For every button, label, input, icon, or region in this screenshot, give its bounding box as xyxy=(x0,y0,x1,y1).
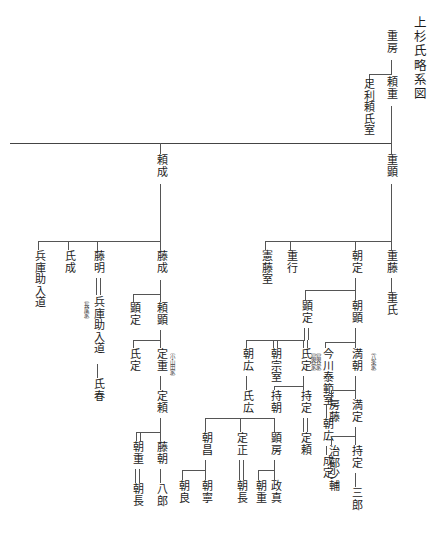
connector-v xyxy=(355,328,356,342)
node-akifusa: 顕房 xyxy=(269,432,281,455)
node-yoriaki: 頼顕 xyxy=(155,302,167,325)
node-shigefusa: 重房 xyxy=(385,30,397,53)
node-mitsusada: 満定 xyxy=(350,399,362,422)
connector-h xyxy=(331,390,355,391)
node-tomoshige-left: 朝重 xyxy=(131,441,143,464)
connector-v-double xyxy=(273,340,278,348)
connector-v-double xyxy=(303,418,308,432)
node-kenfuji-shitsu: 憲藤室 xyxy=(260,250,272,285)
label-nagao-ke: 〔長尾家〕 xyxy=(84,297,89,322)
node-hyogonosuke-nyudo-left: 兵庫助入道 xyxy=(33,250,45,308)
connector-v-double xyxy=(136,432,141,441)
connector-v xyxy=(355,376,356,390)
node-tomoshige-right: 朝重 xyxy=(254,480,266,503)
node-ujinari: 氏成 xyxy=(63,250,75,273)
node-sadayori-2: 定頼 xyxy=(299,432,311,455)
connector-h xyxy=(325,342,355,343)
connector-h xyxy=(133,294,160,295)
genealogy-chart: 上杉氏略系図 重房 頼重 足利頼氏室 頼成 兵庫助入道 氏成 藤明 〔長尾家〕 … xyxy=(0,0,430,549)
node-shigefuji: 重藤 xyxy=(385,250,397,273)
node-mochitomo: 持朝 xyxy=(269,390,281,413)
main-divider xyxy=(10,143,392,144)
node-ujiharu: 氏春 xyxy=(92,378,104,401)
node-tomoyoshi: 朝良 xyxy=(177,480,189,503)
connector-h xyxy=(182,470,205,471)
connector-v xyxy=(391,278,392,292)
connector-v xyxy=(274,470,275,480)
connector-v xyxy=(355,278,356,290)
connector-v xyxy=(258,470,259,480)
connector-v xyxy=(182,470,183,480)
connector-v xyxy=(160,469,161,483)
node-tomonaga-mid: 朝長 xyxy=(235,480,247,503)
connector-v xyxy=(38,241,39,250)
node-tomoaki: 朝顕 xyxy=(350,300,362,323)
connector-v xyxy=(240,418,241,432)
connector-v-double xyxy=(135,469,140,483)
node-mochisada-2: 持定 xyxy=(299,390,311,413)
node-ujihiro: 氏広 xyxy=(241,390,253,413)
node-sadashige: 定重 xyxy=(155,348,167,371)
node-shigeaki: 重顕 xyxy=(385,154,397,177)
connector-v xyxy=(160,432,161,441)
connector-v xyxy=(355,473,356,487)
connector-v xyxy=(355,390,356,399)
connector-v xyxy=(290,241,291,250)
connector-v-double xyxy=(304,328,309,340)
node-tomoyasu: 朝寧 xyxy=(200,480,212,503)
connector-v xyxy=(133,340,134,348)
connector-h xyxy=(133,340,160,341)
connector-v xyxy=(160,280,161,294)
node-akisada-left: 顕定 xyxy=(128,302,140,325)
connector-v xyxy=(246,340,247,348)
node-yorishige: 頼重 xyxy=(385,76,397,99)
connector-v xyxy=(303,376,304,386)
node-tomohiro-upper: 朝広 xyxy=(241,348,253,371)
chart-title: 上杉氏略系図 xyxy=(411,16,424,101)
node-tomomune-shitsu: 朝宗室 xyxy=(269,348,281,383)
connector-v-double xyxy=(303,340,308,348)
connector-v xyxy=(274,418,275,432)
connector-v xyxy=(205,418,206,432)
connector-v xyxy=(305,290,306,300)
node-shigeyuki: 重行 xyxy=(285,250,297,273)
connector-v xyxy=(391,60,392,74)
node-ujishi: 重氏 xyxy=(385,292,397,315)
label-oyamada-ke: 〔小山田家〕 xyxy=(170,349,175,379)
connector-v xyxy=(160,330,161,340)
node-ashikaga-yorishi-shitsu: 足利頼氏室 xyxy=(362,78,374,136)
connector-v xyxy=(391,106,392,143)
connector-v xyxy=(97,364,98,378)
connector-h xyxy=(265,241,392,242)
connector-h xyxy=(274,386,303,387)
node-saburo: 三郎 xyxy=(350,487,362,510)
node-jibunoshoyu: 治部少輔 xyxy=(327,445,339,491)
connector-v xyxy=(391,241,392,250)
node-masazane: 政真 xyxy=(269,480,281,503)
connector-v xyxy=(265,241,266,250)
connector-h xyxy=(305,290,355,291)
node-hyogonosuke-nyudo-2: 兵庫助入道 xyxy=(92,296,104,354)
node-akisada-mid: 顕定 xyxy=(300,300,312,323)
connector-v xyxy=(331,390,332,399)
connector-v xyxy=(205,470,206,480)
connector-v xyxy=(391,184,392,241)
connector-v xyxy=(160,376,161,390)
connector-v xyxy=(68,241,69,250)
node-tomosada-top: 朝定 xyxy=(350,250,362,273)
connector-v xyxy=(331,436,332,445)
node-sadamasa: 定正 xyxy=(235,432,247,455)
label-ogigayatsu-ke-2: 〔扇谷家〕 xyxy=(311,349,316,374)
node-ujisada-left: 氏定 xyxy=(128,348,140,371)
node-fujitomo: 藤朝 xyxy=(155,441,167,464)
node-hachiro: 八郎 xyxy=(155,483,167,506)
connector-v xyxy=(355,241,356,250)
connector-v xyxy=(160,184,161,241)
node-mitsutomo: 満朝 xyxy=(350,348,362,371)
connector-v xyxy=(160,143,161,154)
connector-v-double xyxy=(96,278,101,295)
connector-v xyxy=(391,143,392,154)
connector-h xyxy=(370,74,392,75)
connector-v xyxy=(205,460,206,470)
connector-v xyxy=(160,418,161,432)
